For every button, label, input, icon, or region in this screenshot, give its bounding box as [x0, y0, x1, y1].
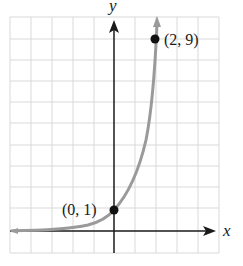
y-axis: [109, 20, 119, 253]
y-axis-label: y: [107, 0, 117, 15]
exponential-graph: (0, 1) (2, 9) x y: [0, 0, 243, 266]
point-2-9: [151, 35, 160, 44]
point-0-1: [110, 206, 119, 215]
curve-arrow-top-icon: [153, 16, 161, 27]
curve-arrow-left-icon: [10, 228, 18, 234]
point-a-label: (0, 1): [62, 201, 97, 219]
point-b-label: (2, 9): [164, 31, 199, 49]
x-axis-label: x: [222, 221, 231, 240]
